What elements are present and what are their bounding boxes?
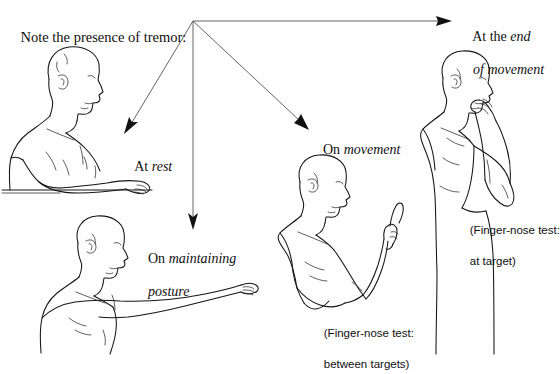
label-on-maintaining-posture-emphasis-2: posture xyxy=(148,284,189,299)
label-at-rest-emphasis: rest xyxy=(152,159,172,174)
label-at-end-of-movement-prefix: At the xyxy=(472,29,510,44)
label-on-maintaining-posture-prefix: On xyxy=(148,251,169,266)
caption-at-target-line2: at target) xyxy=(470,255,516,267)
label-at-end-of-movement-emphasis-2: of movement xyxy=(473,62,544,77)
figure-on-movement xyxy=(278,155,403,309)
label-at-end-of-movement: At the end of movement xyxy=(459,12,544,95)
label-on-maintaining-posture: On maintaining posture xyxy=(134,234,236,317)
caption-between-targets-line1: (Finger-nose test: xyxy=(324,327,414,339)
figure-at-end-of-movement xyxy=(421,51,514,354)
arrow-to-at-end-of-movement xyxy=(193,16,452,26)
label-on-movement: On movement xyxy=(309,125,400,175)
caption-at-target: (Finger-nose test: at target) xyxy=(457,207,560,285)
label-on-movement-prefix: On xyxy=(323,142,344,157)
label-at-end-of-movement-emphasis-1: end xyxy=(510,29,530,44)
caption-between-targets-line2: between targets) xyxy=(324,358,410,370)
label-at-rest: At rest xyxy=(121,142,172,192)
label-at-rest-prefix: At xyxy=(134,159,152,174)
caption-at-target-line1: (Finger-nose test: xyxy=(470,224,560,236)
page-title-text: Note the presence of tremor: xyxy=(21,29,187,45)
page-title: Note the presence of tremor: xyxy=(6,12,186,63)
caption-between-targets: (Finger-nose test: between targets) xyxy=(311,310,414,374)
arrow-to-on-movement xyxy=(193,21,309,130)
label-on-maintaining-posture-emphasis-1: maintaining xyxy=(169,251,237,266)
arrow-to-on-maintaining-posture xyxy=(188,21,198,230)
label-on-movement-emphasis: movement xyxy=(344,142,401,157)
